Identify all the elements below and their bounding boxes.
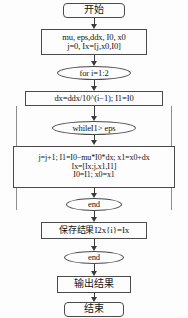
node-for-loop-line-0: for i=1:2 — [79, 69, 108, 78]
node-loop-body: j=j+1; I1=I0−mu*I0*dx; x1=x0+dx Ix=[Ix;j… — [13, 146, 175, 188]
node-end-for-line-0: end — [88, 253, 100, 262]
node-end-while-line-0: end — [88, 200, 100, 209]
node-save-result: 保存结果I2x{i}=Ix — [41, 222, 147, 239]
node-loop-body-line-2: I0=I1; x0=x1 — [73, 171, 114, 179]
arrow-while-to-body — [91, 140, 97, 145]
node-dx-calc-line-0: dx=ddx/10^(i−1); I1=I0 — [54, 94, 133, 103]
node-while-cond-line-0: whileI1> eps — [72, 124, 115, 133]
node-for-loop: for i=1:2 — [57, 66, 131, 80]
node-init-line-1: j=0, Ix=[j,x0,I0] — [67, 42, 121, 51]
node-finish-line-0: 结束 — [84, 304, 104, 315]
node-output: 输出结果 — [57, 276, 131, 293]
node-save-result-line-0: 保存结果I2x{i}=Ix — [59, 226, 129, 235]
node-output-line-0: 输出结果 — [74, 279, 114, 290]
node-start: 开始 — [63, 3, 125, 18]
node-while-cond: whileI1> eps — [52, 121, 136, 135]
node-end-for: end — [64, 251, 124, 264]
node-start-line-0: 开始 — [84, 5, 104, 16]
flowchart-diagram: 开始 mu, eps,ddx, I0, x0 j=0, Ix=[j,x0,I0]… — [0, 0, 188, 318]
node-end-while: end — [66, 198, 122, 211]
node-init: mu, eps,ddx, I0, x0 j=0, Ix=[j,x0,I0] — [41, 29, 147, 55]
node-finish: 结束 — [64, 302, 124, 317]
node-dx-calc: dx=ddx/10^(i−1); I1=I0 — [25, 91, 163, 106]
